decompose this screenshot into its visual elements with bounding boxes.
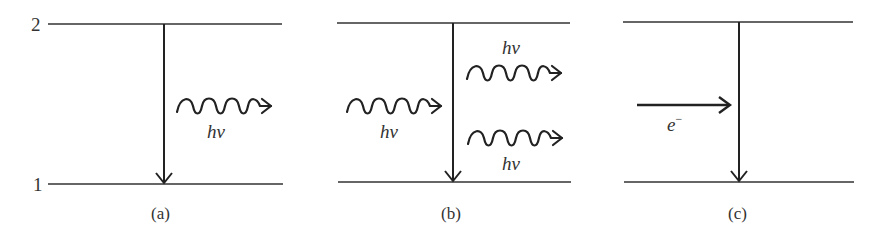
emitted-photon-energy-label-lower: hν xyxy=(502,153,521,174)
incoming-photon-energy-label: hν xyxy=(380,121,399,142)
incoming-photon-wave-icon xyxy=(347,99,441,114)
emitted-photon-energy-label-upper: hν xyxy=(502,37,521,58)
panel-a: 2 1 hν (a) xyxy=(31,14,283,223)
transition-arrow xyxy=(445,23,461,181)
emitted-photon-wave-icon-upper xyxy=(467,66,561,81)
electron-arrow-icon xyxy=(637,97,730,113)
emitted-photon-wave-icon-lower xyxy=(468,131,562,146)
level-2-label: 2 xyxy=(31,14,41,35)
panel-c-caption: (c) xyxy=(728,204,747,223)
level-1-label: 1 xyxy=(33,174,43,195)
panel-c: e− (c) xyxy=(623,22,854,223)
electron-label: e− xyxy=(667,112,682,135)
transition-arrow xyxy=(156,24,172,183)
transition-arrow xyxy=(731,22,747,181)
panel-a-caption: (a) xyxy=(151,204,170,223)
panel-b: hν hν hν (b) xyxy=(337,23,571,223)
photon-energy-label: hν xyxy=(207,121,226,142)
emitted-photon-wave-icon xyxy=(177,99,271,114)
energy-level-transition-figure: 2 1 hν (a) hν xyxy=(0,0,881,238)
panel-b-caption: (b) xyxy=(441,204,461,223)
